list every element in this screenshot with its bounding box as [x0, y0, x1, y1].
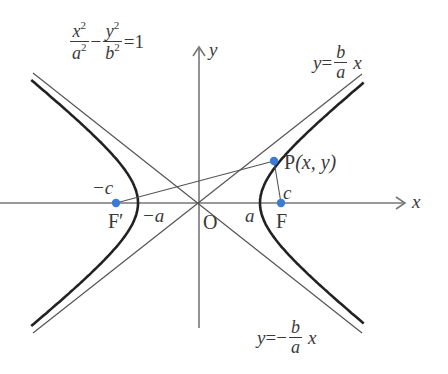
point-p [270, 157, 278, 165]
origin-label: O [203, 212, 217, 232]
asymptote-positive-label: y= ba x [313, 43, 362, 82]
hyperbola-equation: x2a2 − y2b2 =1 [68, 20, 144, 63]
x-axis-label: x [412, 192, 420, 211]
asymptote-negative-label: y=− ba x [257, 318, 316, 357]
y-axis-label: y [209, 40, 217, 59]
point-p-label: P(x, y) [284, 152, 336, 172]
focus-left-label: F′ [108, 211, 124, 231]
vertex-left-label: −a [142, 206, 164, 225]
focus-left-point [112, 199, 120, 207]
focus-right-label: F [276, 211, 287, 231]
focus-right-coord-label: c [283, 183, 291, 202]
segment-pf [274, 161, 281, 203]
vertex-right-label: a [245, 206, 255, 225]
segment-pf-prime [116, 161, 274, 203]
focus-left-coord-label: −c [92, 178, 113, 197]
